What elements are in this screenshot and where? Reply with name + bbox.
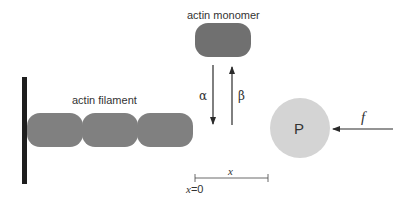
filament-subunit-3 xyxy=(137,113,193,147)
actin-filament xyxy=(27,113,193,147)
origin-label: x=0 xyxy=(185,183,203,195)
distance-label: x xyxy=(227,165,233,177)
filament-subunit-2 xyxy=(82,113,138,147)
particle-label: P xyxy=(294,120,304,137)
force-label: f xyxy=(361,109,367,125)
filament-label: actin filament xyxy=(72,94,137,106)
filament-subunit-1 xyxy=(27,113,83,147)
alpha-label: α xyxy=(199,89,207,103)
monomer-label: actin monomer xyxy=(187,9,260,21)
actin-polymerization-diagram: actin filament actin monomer α β P f x x… xyxy=(0,0,415,207)
actin-monomer xyxy=(195,23,251,57)
beta-label: β xyxy=(238,89,245,103)
wall-barrier xyxy=(22,77,27,184)
